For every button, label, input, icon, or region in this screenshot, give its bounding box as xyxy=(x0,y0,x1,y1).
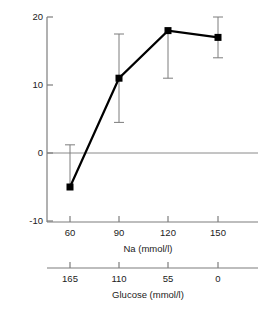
x-tick-label-120: 120 xyxy=(160,227,176,238)
x2-tick-label-165: 165 xyxy=(62,273,78,284)
x-tick-label-90: 90 xyxy=(114,227,125,238)
data-point-marker xyxy=(215,34,222,41)
x2-tick-label-0: 0 xyxy=(215,273,220,284)
chart-figure: 20 10 0 -10 60 90 120 150 Na (mmol/l) 16… xyxy=(0,0,269,310)
data-point-marker xyxy=(116,75,123,82)
data-point-marker xyxy=(165,27,172,34)
y-tick-label-20: 20 xyxy=(32,11,43,22)
x2-tick-label-55: 55 xyxy=(163,273,174,284)
y-tick-label-0: 0 xyxy=(38,147,43,158)
x-axis-title-na: Na (mmol/l) xyxy=(123,243,172,254)
x-tick-label-150: 150 xyxy=(210,227,226,238)
y-tick-label-minus10: -10 xyxy=(29,215,43,226)
x-tick-label-60: 60 xyxy=(65,227,76,238)
x2-tick-label-110: 110 xyxy=(111,273,126,284)
x-axis-title-glucose: Glucose (mmol/l) xyxy=(112,289,184,300)
data-point-marker xyxy=(67,184,74,191)
y-tick-label-10: 10 xyxy=(32,79,43,90)
line-chart-with-error-bars: 20 10 0 -10 60 90 120 150 Na (mmol/l) 16… xyxy=(0,0,269,310)
